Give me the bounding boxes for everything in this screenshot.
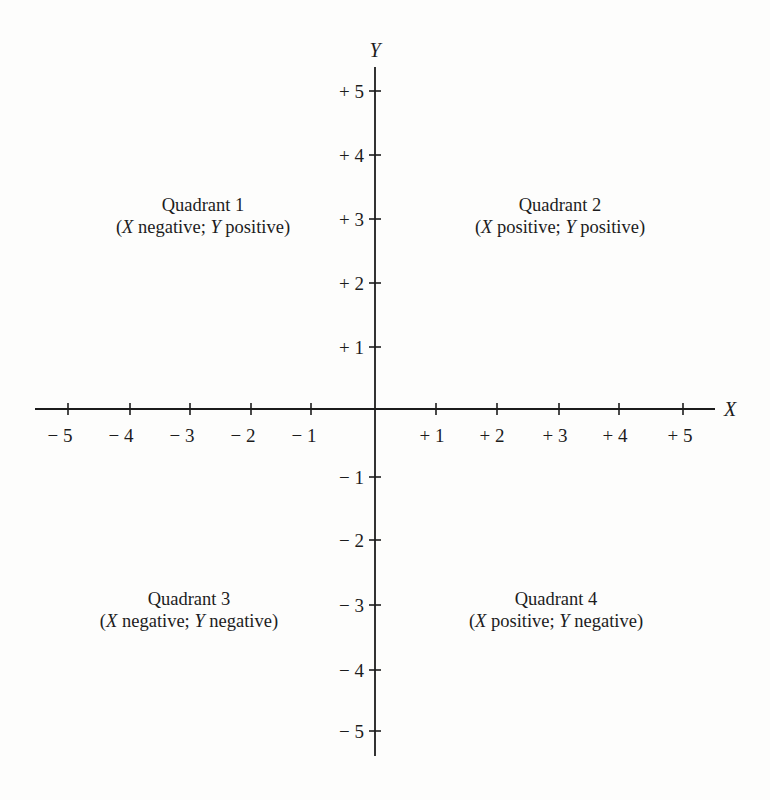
y-tick-label: + 3 — [339, 209, 364, 230]
x-axis-label: X — [723, 398, 737, 420]
y-tick-label: − 3 — [339, 595, 364, 616]
coordinate-plane-diagram: Y X − 5 − 4 − 3 − 2 − 1 + 1 + 2 + 3 + 4 … — [0, 0, 770, 800]
x-tick-label: − 2 — [231, 425, 256, 446]
quadrant-1-label: Quadrant 1 (X negative; Y positive) — [116, 195, 290, 238]
quadrant-title: Quadrant 3 — [148, 589, 231, 609]
x-tick-label: − 5 — [48, 425, 73, 446]
quadrant-4-label: Quadrant 4 (X positive; Y negative) — [469, 589, 643, 632]
quadrant-description: (X negative; Y negative) — [100, 611, 278, 632]
x-tick-label: − 4 — [109, 425, 134, 446]
x-tick-label: + 2 — [480, 425, 505, 446]
quadrant-title: Quadrant 2 — [519, 195, 602, 215]
x-tick-label: − 3 — [170, 425, 195, 446]
quadrant-description: (X positive; Y positive) — [475, 217, 645, 238]
quadrant-2-label: Quadrant 2 (X positive; Y positive) — [475, 195, 645, 238]
x-tick-label: + 5 — [668, 425, 693, 446]
y-tick-label: − 2 — [339, 530, 364, 551]
quadrant-description: (X negative; Y positive) — [116, 217, 290, 238]
y-tick-label: − 4 — [339, 660, 364, 681]
y-tick-label: + 1 — [339, 337, 364, 358]
quadrant-title: Quadrant 1 — [162, 195, 245, 215]
y-tick-label: + 2 — [339, 273, 364, 294]
y-tick-label: + 5 — [339, 81, 364, 102]
x-tick-label: + 4 — [603, 425, 628, 446]
x-tick-label: − 1 — [292, 425, 317, 446]
y-tick-label: − 5 — [339, 721, 364, 742]
y-axis-tick-labels: + 5 + 4 + 3 + 2 + 1 − 1 − 2 − 3 − 4 − 5 — [339, 81, 364, 742]
quadrant-title: Quadrant 4 — [515, 589, 598, 609]
quadrant-description: (X positive; Y negative) — [469, 611, 643, 632]
x-tick-label: + 1 — [420, 425, 445, 446]
y-tick-label: + 4 — [339, 145, 364, 166]
y-tick-label: − 1 — [339, 467, 364, 488]
y-axis-label: Y — [369, 39, 382, 61]
x-tick-label: + 3 — [543, 425, 568, 446]
quadrant-3-label: Quadrant 3 (X negative; Y negative) — [100, 589, 278, 632]
x-axis-tick-labels: − 5 − 4 − 3 − 2 − 1 + 1 + 2 + 3 + 4 + 5 — [48, 425, 693, 446]
